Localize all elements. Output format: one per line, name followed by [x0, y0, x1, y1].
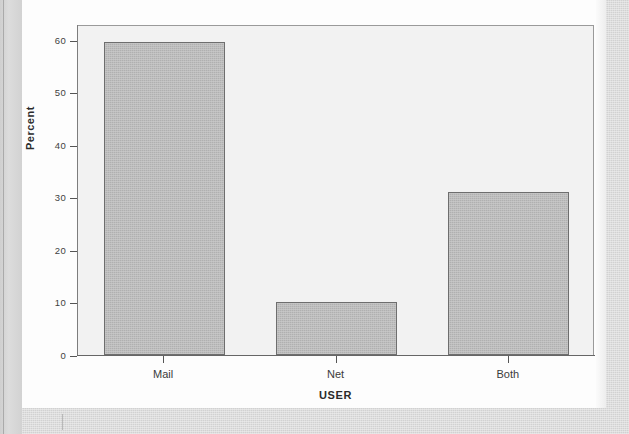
y-tick-label: 0 — [22, 350, 66, 361]
x-tick-mark — [336, 356, 337, 363]
y-tick-label: 20 — [22, 245, 66, 256]
x-tick-label-net: Net — [276, 368, 396, 380]
page-gutter-mark — [62, 414, 63, 430]
y-tick-mark — [70, 41, 77, 42]
x-tick-label-mail: Mail — [103, 368, 223, 380]
y-tick-mark — [70, 303, 77, 304]
y-tick-mark — [70, 251, 77, 252]
bar-net — [276, 302, 397, 355]
y-axis-line — [77, 25, 78, 356]
y-tick-mark — [70, 356, 77, 357]
y-tick-label: 10 — [22, 297, 66, 308]
plot-area — [77, 25, 594, 356]
y-tick-mark — [70, 93, 77, 94]
y-tick-label: 50 — [22, 87, 66, 98]
x-tick-label-both: Both — [448, 368, 568, 380]
y-axis-title: Percent — [24, 106, 36, 150]
y-tick-label: 60 — [22, 35, 66, 46]
scan-page-edge-line — [3, 0, 4, 434]
scanned-chart-screenshot: 0102030405060 MailNetBoth Percent USER — [0, 0, 629, 434]
y-tick-mark — [70, 146, 77, 147]
x-tick-mark — [163, 356, 164, 363]
bar-mail — [104, 42, 225, 355]
x-axis-title: USER — [77, 389, 594, 401]
y-tick-label: 30 — [22, 192, 66, 203]
bars-layer — [78, 26, 593, 355]
page-right-shadow — [596, 0, 606, 408]
y-tick-mark — [70, 198, 77, 199]
x-tick-mark — [508, 356, 509, 363]
bar-both — [448, 192, 569, 355]
